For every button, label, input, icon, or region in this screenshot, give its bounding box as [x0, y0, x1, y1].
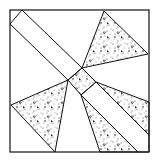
triangle-top-right	[82, 11, 148, 68]
center-square	[68, 68, 96, 95]
triangle-left	[11, 80, 68, 152]
band-top-left	[10, 10, 82, 80]
quilt-diagram	[0, 0, 159, 162]
